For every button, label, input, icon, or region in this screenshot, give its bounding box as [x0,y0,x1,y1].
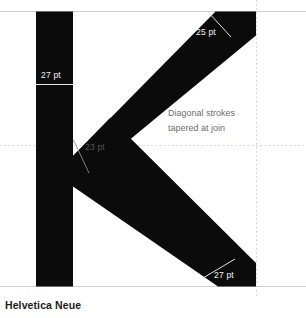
typeface-name-caption: Helvetica Neue [5,299,81,311]
arm-width-label: 25 pt [196,28,216,37]
glyph-diagram-svg [0,0,306,296]
leg-width-label: 27 pt [214,271,234,280]
type-specimen-panel: 27 pt 25 pt 23 pt 27 pt Diagonal strokes… [0,0,306,318]
taper-annotation-note: Diagonal strokes tapered at join [168,106,288,136]
k-stem [36,12,73,287]
caption-bar: Helvetica Neue [0,296,306,318]
join-width-label: 23 pt [85,143,105,152]
stem-width-label: 27 pt [41,71,61,80]
letter-k-glyph [36,12,256,287]
glyph-stage: 27 pt 25 pt 23 pt 27 pt Diagonal strokes… [0,0,306,296]
